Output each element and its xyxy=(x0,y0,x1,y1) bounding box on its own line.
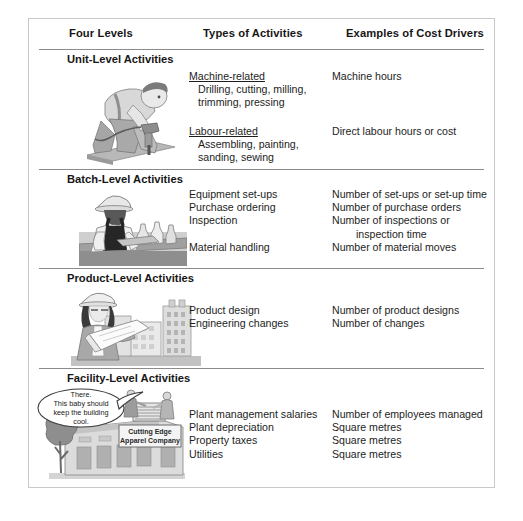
driver-line: Number of set-ups or set-up time xyxy=(332,188,487,201)
activity-line: Product design xyxy=(189,304,289,317)
section-title-batch-level: Batch-Level Activities xyxy=(67,173,183,185)
speech-bubble-line-4: cool. xyxy=(73,417,88,426)
activity-list-product-level: Product design Engineering changes xyxy=(189,304,289,330)
activity-line: Property taxes xyxy=(189,434,317,447)
engineer-blueprint-illustration xyxy=(71,288,201,366)
column-header-four-levels: Four Levels xyxy=(69,27,133,39)
speech-bubble-line-1: There. xyxy=(70,390,91,399)
activity-group-heading: Machine-related xyxy=(189,70,306,83)
activity-line: Plant management salaries xyxy=(189,408,317,421)
activity-line: Plant depreciation xyxy=(189,421,317,434)
building-sign-line-1: Cutting Edge xyxy=(128,428,172,436)
activity-group-heading: Labour-related xyxy=(189,125,299,138)
activity-line: Inspection xyxy=(189,214,277,227)
activity-line: Purchase ordering xyxy=(189,201,277,214)
driver-line: Direct labour hours or cost xyxy=(332,125,456,138)
driver-line: Number of inspections or xyxy=(332,214,487,227)
speech-bubble-line-3: keep the building xyxy=(53,408,108,417)
driver-line: Number of employees managed xyxy=(332,408,483,421)
section-product-level: Product-Level Activities xyxy=(29,269,494,367)
driver-list-batch-level: Number of set-ups or set-up time Number … xyxy=(332,188,487,254)
driver-labour-related: Direct labour hours or cost xyxy=(332,125,456,138)
activity-line-spacer xyxy=(189,228,277,241)
activity-list-facility-level: Plant management salaries Plant deprecia… xyxy=(189,408,317,461)
table-header-row: Four Levels Types of Activities Examples… xyxy=(39,25,484,51)
driver-line: Number of purchase orders xyxy=(332,201,487,214)
worker-bench-illustration xyxy=(79,188,187,266)
section-title-facility-level: Facility-Level Activities xyxy=(67,372,190,384)
driver-line: Number of product designs xyxy=(332,304,459,317)
column-header-drivers: Examples of Cost Drivers xyxy=(346,27,484,39)
activity-line: Material handling xyxy=(189,241,277,254)
driver-machine-related: Machine hours xyxy=(332,70,402,83)
activity-line: Assembling, painting, xyxy=(189,138,299,151)
section-unit-level: Unit-Level Activities xyxy=(29,50,494,168)
activity-group-labour-related: Labour-related Assembling, painting, san… xyxy=(189,125,299,165)
section-title-product-level: Product-Level Activities xyxy=(67,272,194,284)
driver-list-facility-level: Number of employees managed Square metre… xyxy=(332,408,483,461)
activity-line: Utilities xyxy=(189,448,317,461)
driver-line: inspection time xyxy=(332,228,487,241)
activity-line: sanding, sewing xyxy=(189,151,299,164)
activity-line: Drilling, cutting, milling, xyxy=(189,83,306,96)
section-batch-level: Batch-Level Activities xyxy=(29,170,494,267)
activity-line: Engineering changes xyxy=(189,317,289,330)
speech-bubble-line-2: This baby should xyxy=(53,399,108,408)
four-levels-table: Four Levels Types of Activities Examples… xyxy=(28,18,495,488)
factory-building-illustration: Cutting Edge Apparel Company xyxy=(33,387,191,482)
driver-list-product-level: Number of product designs Number of chan… xyxy=(332,304,459,330)
activity-group-machine-related: Machine-related Drilling, cutting, milli… xyxy=(189,70,306,110)
driver-line: Square metres xyxy=(332,448,483,461)
driver-line: Number of material moves xyxy=(332,241,487,254)
driver-line: Number of changes xyxy=(332,317,459,330)
building-sign-line-2: Apparel Company xyxy=(120,437,180,445)
activity-list-batch-level: Equipment set-ups Purchase ordering Insp… xyxy=(189,188,277,254)
driver-line: Square metres xyxy=(332,434,483,447)
section-title-unit-level: Unit-Level Activities xyxy=(67,53,174,65)
activity-line: Equipment set-ups xyxy=(189,188,277,201)
worker-drilling-illustration xyxy=(71,69,189,167)
driver-line: Machine hours xyxy=(332,70,402,83)
driver-line: Square metres xyxy=(332,421,483,434)
section-facility-level: Facility-Level Activities xyxy=(29,369,494,487)
column-header-types: Types of Activities xyxy=(203,27,303,39)
activity-line: trimming, pressing xyxy=(189,96,306,109)
